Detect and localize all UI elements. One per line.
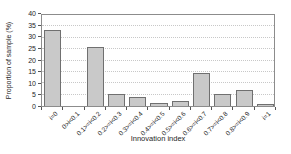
y-tick bbox=[38, 94, 41, 95]
x-tick bbox=[84, 107, 85, 110]
x-tick bbox=[211, 107, 212, 110]
y-tick-label: 30 bbox=[22, 33, 36, 41]
gridline-35 bbox=[42, 25, 274, 26]
x-tick bbox=[169, 107, 170, 110]
bar bbox=[44, 30, 61, 106]
x-tick bbox=[254, 107, 255, 110]
x-tick-label: i=1 bbox=[261, 110, 272, 121]
bar bbox=[236, 90, 253, 106]
y-tick-label: 10 bbox=[22, 80, 36, 88]
x-axis-title: Innovation index bbox=[98, 134, 218, 143]
plot-area bbox=[41, 14, 275, 107]
bar bbox=[214, 94, 231, 107]
y-tick bbox=[38, 13, 41, 14]
x-tick bbox=[275, 107, 276, 110]
bar bbox=[87, 47, 104, 106]
gridline-20 bbox=[42, 60, 274, 61]
bar bbox=[150, 103, 167, 106]
x-tick-label: i=0 bbox=[48, 110, 59, 121]
y-axis-title: Proportion of sample (%) bbox=[4, 14, 13, 107]
y-tick-label: 15 bbox=[22, 68, 36, 76]
bar bbox=[172, 101, 189, 106]
x-tick bbox=[41, 107, 42, 110]
y-tick bbox=[38, 60, 41, 61]
y-tick bbox=[38, 48, 41, 49]
x-tick bbox=[126, 107, 127, 110]
bar bbox=[108, 94, 125, 107]
x-tick bbox=[190, 107, 191, 110]
x-tick bbox=[105, 107, 106, 110]
gridline-30 bbox=[42, 37, 274, 38]
innovation-index-bar-chart: Proportion of sample (%) Innovation inde… bbox=[0, 0, 291, 154]
gridline-15 bbox=[42, 71, 274, 72]
y-tick bbox=[38, 25, 41, 26]
x-tick bbox=[147, 107, 148, 110]
y-tick bbox=[38, 36, 41, 37]
y-tick-label: 20 bbox=[22, 57, 36, 65]
y-tick-label: 5 bbox=[22, 91, 36, 99]
bar bbox=[257, 104, 274, 106]
y-tick-label: 0 bbox=[22, 103, 36, 111]
y-tick bbox=[38, 83, 41, 84]
gridline-10 bbox=[42, 82, 274, 83]
y-tick-label: 35 bbox=[22, 22, 36, 30]
bar bbox=[193, 73, 210, 106]
gridline-25 bbox=[42, 48, 274, 49]
x-tick bbox=[232, 107, 233, 110]
bar bbox=[129, 97, 146, 106]
y-tick bbox=[38, 71, 41, 72]
x-tick bbox=[62, 107, 63, 110]
y-tick-label: 25 bbox=[22, 45, 36, 53]
x-tick-label: 0>i<0.1 bbox=[60, 110, 80, 130]
y-tick-label: 40 bbox=[22, 10, 36, 18]
